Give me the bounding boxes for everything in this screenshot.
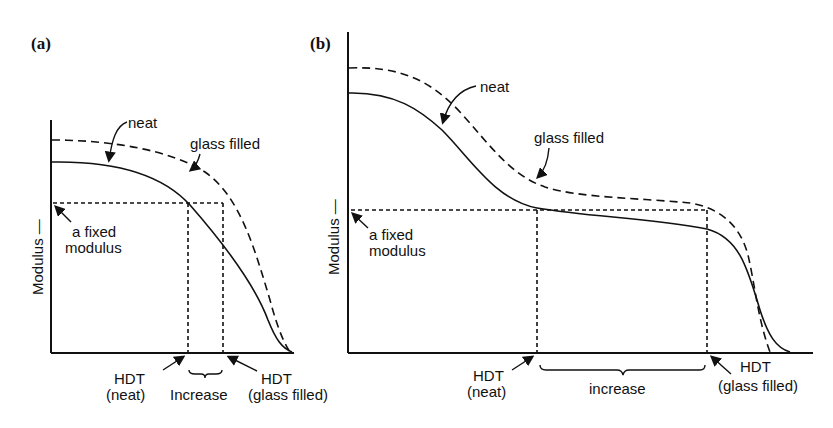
panel-b-hdt-glass-arrow [712, 357, 731, 374]
figure: (a) Modulus — neat glass filled a fixed … [0, 0, 833, 428]
svg-text:Modulus —: Modulus — [325, 199, 342, 275]
panel-a-increase-label: Increase [170, 386, 228, 403]
panel-b-neat-arrow [443, 86, 476, 122]
panel-b-fixed-modulus-line2: modulus [369, 242, 426, 259]
panel-b-y-axis-label: Modulus — [325, 199, 342, 275]
panel-a-label: (a) [31, 34, 51, 53]
panel-a-increase-brace [189, 370, 222, 378]
panel-a-hdt-neat-arrow [163, 357, 183, 370]
panel-b-fixed-modulus-arrow [353, 214, 368, 228]
panel-a-y-axis-label: Modulus — [29, 219, 46, 295]
panel-b-glass-label: glass filled [534, 129, 604, 146]
panel-b-hdt-neat-arrow [512, 357, 532, 370]
panel-a-neat-curve [52, 162, 292, 352]
panel-a-hdt-neat-line1: HDT [114, 370, 145, 387]
panel-b-fixed-modulus-line1: a fixed [369, 226, 413, 243]
panel-b-increase-label: increase [589, 380, 646, 397]
panel-b-hdt-neat-line1: HDT [473, 367, 504, 384]
panel-b-increase-brace [540, 365, 705, 375]
panel-a-neat-arrow [109, 122, 127, 160]
panel-b-glass-arrow [538, 148, 549, 177]
svg-text:Modulus —: Modulus — [29, 219, 46, 295]
panel-a-fixed-modulus-arrow [56, 207, 71, 222]
panel-b-neat-label: neat [480, 78, 510, 95]
panel-a-fixed-modulus-line1: a fixed [72, 223, 116, 240]
panel-a: (a) Modulus — neat glass filled a fixed … [29, 34, 328, 403]
panel-b-hdt-neat-line2: (neat) [467, 383, 506, 400]
panel-a-hdt-glass-arrow [229, 357, 257, 371]
panel-b: (b) Modulus — neat glass filled a fixed … [310, 32, 813, 400]
panel-b-hdt-glass-line2: (glass filled) [718, 377, 798, 394]
panel-a-hdt-neat-line2: (neat) [106, 386, 145, 403]
panel-b-hdt-glass-line1: HDT [740, 358, 771, 375]
panel-b-label: (b) [310, 34, 331, 53]
panel-a-neat-label: neat [128, 114, 158, 131]
panel-a-fixed-modulus-line2: modulus [65, 239, 122, 256]
panel-a-glass-label: glass filled [190, 135, 260, 152]
panel-a-hdt-glass-line2: (glass filled) [248, 386, 328, 403]
panel-a-hdt-glass-line1: HDT [261, 370, 292, 387]
